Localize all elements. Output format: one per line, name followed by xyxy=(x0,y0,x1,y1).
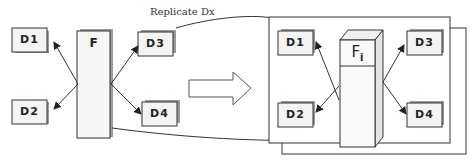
arrow-f-to-d4 xyxy=(111,84,141,114)
left-d1-label: D1 xyxy=(12,33,47,46)
diagram-canvas xyxy=(0,0,472,166)
replicate-dx-label: Replicate Dx xyxy=(150,6,215,17)
arrow-f-to-d3 xyxy=(111,46,138,84)
left-d3-label: D3 xyxy=(138,37,173,50)
right-d1-label: D1 xyxy=(278,36,313,49)
replication-diagram: Replicate Dx D1 D2 D3 D4 F D1 D2 D3 D4 F… xyxy=(0,0,472,166)
right-d2-label: D2 xyxy=(278,108,313,121)
left-fragment-label: F xyxy=(77,36,110,50)
fragment-letter: F xyxy=(351,43,360,61)
arrow-f-to-d2 xyxy=(54,84,78,109)
arrow-f-to-d1 xyxy=(54,42,78,84)
right-d4-label: D4 xyxy=(407,108,442,121)
left-d2-label: D2 xyxy=(12,105,47,118)
transform-block-arrow-icon xyxy=(189,72,251,105)
right-fragment-label: Fi xyxy=(340,43,375,63)
left-d4-label: D4 xyxy=(142,107,177,120)
right-d3-label: D3 xyxy=(407,36,442,49)
fragment-subscript: i xyxy=(360,52,363,63)
